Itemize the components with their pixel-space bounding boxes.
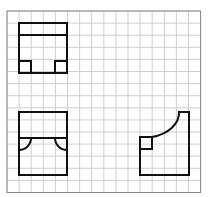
grid-lines [7, 11, 201, 193]
small-square [140, 137, 152, 149]
three-view-diagram [0, 0, 208, 197]
